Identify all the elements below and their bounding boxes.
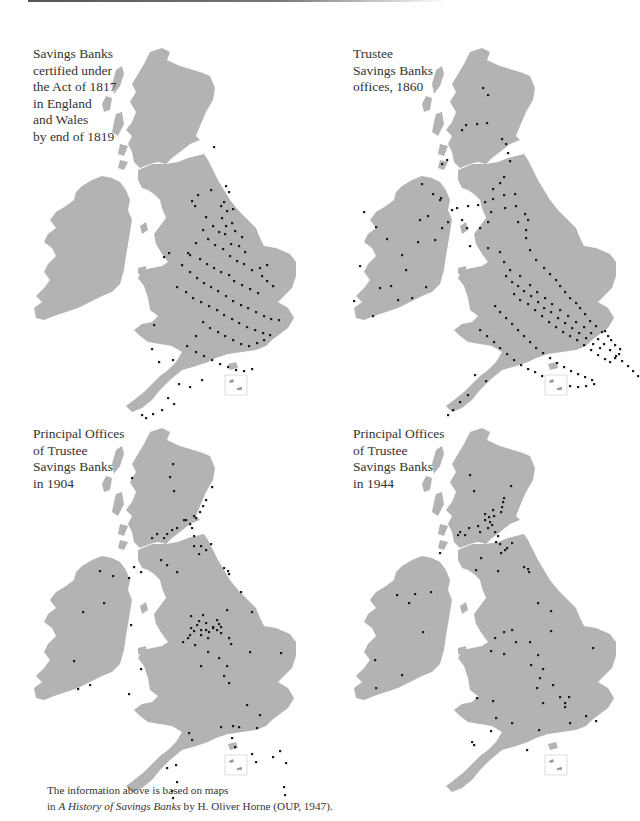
savings-bank-dot [226,609,228,611]
savings-bank-dot [151,348,153,350]
savings-bank-dot [543,267,545,269]
savings-bank-dot [363,211,365,213]
savings-bank-dot [537,301,539,303]
savings-bank-dot [190,627,192,629]
savings-bank-dot [457,534,459,536]
savings-bank-dot [203,355,205,357]
savings-bank-dot [243,263,245,265]
savings-bank-dot [466,227,468,229]
savings-bank-dot [257,292,259,294]
savings-bank-dot [585,385,587,387]
savings-bank-dot [241,236,243,238]
savings-bank-dot [181,264,183,266]
savings-bank-dot [504,207,506,209]
savings-bank-dot [140,668,142,670]
map-panel-map-1944: Principal Offices of Trustee Savings Ban… [340,420,640,795]
savings-bank-dot [488,516,490,518]
savings-bank-dot [492,198,494,200]
savings-bank-dot [473,490,475,492]
savings-bank-dot [205,216,207,218]
savings-bank-dot [188,732,190,734]
savings-bank-dot [173,403,175,405]
savings-bank-dot [499,543,501,545]
savings-bank-dot [487,527,489,529]
savings-bank-dot [201,379,203,381]
savings-bank-dot [195,351,197,353]
savings-bank-dot [422,631,424,633]
savings-bank-dot [153,324,155,326]
savings-bank-dot [509,160,511,162]
savings-bank-dot [401,254,403,256]
savings-bank-dot [191,739,193,741]
savings-bank-dot [614,357,616,359]
savings-bank-dot [421,183,423,185]
savings-bank-dot [207,637,209,639]
savings-bank-dot [193,545,195,547]
map-caption: Savings Banks certified under the Act of… [33,46,117,145]
savings-bank-dot [513,359,515,361]
savings-bank-dot [217,290,219,292]
savings-bank-dot [564,702,566,704]
savings-bank-dot [210,286,212,288]
savings-bank-dot [621,360,623,362]
savings-bank-dot [234,746,236,748]
savings-bank-dot [557,317,559,319]
savings-bank-dot [262,332,264,334]
savings-bank-dot [529,284,531,286]
savings-bank-dot [503,194,505,196]
savings-bank-dot [529,641,531,643]
savings-bank-dot [200,629,202,631]
savings-bank-dot [493,515,495,517]
savings-bank-dot [195,242,197,244]
savings-bank-dot [249,288,251,290]
savings-bank-dot [434,239,436,241]
savings-bank-dot [236,260,238,262]
savings-bank-dot [417,241,419,243]
savings-bank-dot [559,696,561,698]
savings-bank-dot [549,273,551,275]
savings-bank-dot [465,124,467,126]
savings-bank-dot [223,675,225,677]
savings-bank-dot [590,332,592,334]
savings-bank-dot [223,567,225,569]
savings-bank-dot [550,610,552,612]
map-landmass [354,48,616,412]
savings-bank-dot [430,591,432,593]
savings-bank-dot [419,219,421,221]
savings-bank-dot [224,233,226,235]
savings-bank-dot [487,221,489,223]
savings-bank-dot [537,602,539,604]
savings-bank-dot [216,619,218,621]
savings-bank-dot [189,634,191,636]
savings-bank-dot [228,573,230,575]
savings-bank-dot [432,193,434,195]
savings-bank-dot [213,267,215,269]
savings-bank-dot [228,637,230,639]
savings-bank-dot [467,205,469,207]
savings-bank-dot [198,553,200,555]
savings-bank-dot [185,291,187,293]
savings-bank-dot [568,696,570,698]
savings-bank-dot [447,414,449,416]
savings-bank-dot [524,213,526,215]
savings-bank-dot [530,295,532,297]
savings-bank-dot [535,347,537,349]
savings-bank-dot [607,335,609,337]
savings-bank-dot [77,688,79,690]
savings-bank-dot [425,286,427,288]
savings-bank-dot [500,552,502,554]
savings-bank-dot [637,375,639,377]
savings-bank-dot [619,348,621,350]
savings-bank-dot [397,299,399,301]
savings-bank-dot [232,300,234,302]
savings-bank-dot [375,687,377,689]
savings-bank-dot [169,476,171,478]
savings-bank-dot [459,531,461,533]
savings-bank-dot [210,189,212,191]
savings-bank-dot [609,349,611,351]
savings-bank-dot [479,227,481,229]
savings-bank-dot [73,660,75,662]
savings-bank-dot [489,521,491,523]
savings-bank-dot [439,199,441,201]
savings-bank-dot [520,364,522,366]
